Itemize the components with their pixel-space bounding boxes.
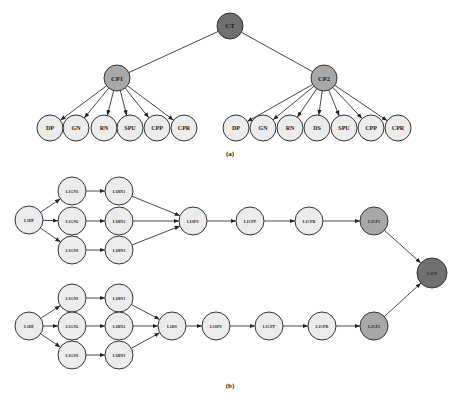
node-cp1: CP1: [104, 65, 130, 91]
edge-arrow: [333, 87, 362, 118]
node-l1rn1: L1RN1: [105, 284, 133, 312]
node-gn: GN: [250, 115, 276, 141]
edge-arrow: [41, 334, 61, 347]
node-l1gn3: L1GN3: [58, 341, 86, 369]
node-label: L2CP2: [368, 324, 380, 329]
node-label: L1GN2: [66, 324, 79, 329]
node-l1cpr: L1CPR: [308, 312, 336, 340]
node-l1spu: L1SPU: [179, 207, 207, 235]
node-l1cp: L1CP: [417, 258, 447, 288]
node-label: L1RN3: [113, 353, 125, 358]
node-label: L1GN2: [66, 219, 79, 224]
node-label: L1RN1: [113, 189, 125, 194]
node-l1cpr: L1CPR: [295, 207, 323, 235]
edge-arrow: [120, 91, 126, 116]
node-label: L1GN1: [66, 189, 79, 194]
node-l1gn2: L1GN2: [58, 207, 86, 235]
node-label: CPR: [178, 125, 191, 131]
node-label: L1CP: [427, 271, 438, 276]
edge-arrow: [297, 89, 316, 117]
node-label: L1DF: [24, 324, 35, 329]
edge-arrow: [329, 90, 339, 116]
node-label: DP: [46, 125, 54, 131]
node-label: L1DS: [167, 324, 178, 329]
node-l1cpp: L1CPP: [236, 207, 264, 235]
node-label: L1CPR: [303, 219, 316, 224]
node-l1rn3: L1RN3: [105, 341, 133, 369]
node-label: SPU: [124, 125, 136, 131]
edge-arrow: [40, 228, 60, 242]
edge-arrow: [107, 91, 113, 116]
edge-arrow: [84, 88, 109, 118]
node-rn: RN: [277, 115, 303, 141]
node-label: CPP: [151, 125, 163, 131]
node-label: CP2: [318, 75, 330, 82]
node-l1rn1: L1RN1: [105, 177, 133, 205]
node-l2cp1: L2CP1: [360, 207, 388, 235]
node-label: L1SPU: [187, 219, 199, 224]
node-l1rn2: L1RN2: [105, 312, 133, 340]
node-l1rn2: L1RN2: [105, 207, 133, 235]
node-label: DP: [232, 125, 240, 131]
node-l1rn3: L1RN3: [105, 236, 133, 264]
node-label: L1CPR: [316, 324, 329, 329]
edge-arrow: [132, 226, 180, 245]
node-label: L1RN1: [113, 296, 125, 301]
node-label: DS: [313, 125, 321, 131]
node-spu: SPU: [331, 115, 357, 141]
node-label: L1GN3: [66, 248, 79, 253]
node-spu: SPU: [117, 115, 143, 141]
node-label: RN: [100, 125, 109, 131]
node-dp: DP: [37, 115, 63, 141]
node-l1df: L1DF: [15, 312, 43, 340]
node-l1gn2: L1GN2: [58, 312, 86, 340]
node-label: CT: [225, 22, 235, 30]
node-rn: RN: [91, 115, 117, 141]
node-label: L1CPP: [244, 219, 257, 224]
edge-arrow: [41, 199, 61, 212]
node-label: GN: [72, 125, 82, 131]
node-l1spu: L1SPU: [202, 312, 230, 340]
edge-arrow: [384, 230, 420, 263]
edge-arrow: [132, 196, 180, 215]
node-l1gn3: L1GN3: [58, 236, 86, 264]
node-label: CPP: [365, 125, 377, 131]
node-label: RN: [286, 125, 295, 131]
node-label: CPR: [392, 125, 405, 131]
node-label: GN: [259, 125, 269, 131]
edge-arrow: [384, 283, 421, 316]
edge-arrow: [60, 86, 106, 120]
node-gn: GN: [63, 115, 89, 141]
node-dp: DP: [223, 115, 249, 141]
node-label: CP1: [111, 75, 123, 82]
edge-arrow: [127, 86, 173, 120]
node-label: L1GN1: [66, 296, 79, 301]
edge-arrow: [129, 31, 218, 72]
node-cpp: CPP: [358, 115, 384, 141]
edge-arrow: [41, 306, 61, 319]
node-label: L1CPP: [263, 324, 276, 329]
node-cpp: CPP: [144, 115, 170, 141]
edge-arrow: [319, 91, 322, 115]
node-cpr: CPR: [171, 115, 197, 141]
edge-arrow: [131, 305, 159, 320]
node-label: L2CP1: [368, 219, 380, 224]
node-l1cpp: L1CPP: [255, 312, 283, 340]
node-l1gn1: L1GN1: [58, 284, 86, 312]
node-cp2: CP2: [311, 65, 337, 91]
node-ds: DS: [304, 115, 330, 141]
node-l2cp2: L2CP2: [360, 312, 388, 340]
flow-diagram-b: L1DPL1GN1L1GN2L1GN3L1RN1L1RN2L1RN3L1SPUL…: [15, 177, 447, 369]
node-label: L1SPU: [210, 324, 222, 329]
node-label: L1RN2: [113, 219, 125, 224]
node-ct: CT: [217, 13, 243, 39]
edge-arrow: [241, 32, 312, 71]
node-l1gn1: L1GN1: [58, 177, 86, 205]
caption-b: (b): [226, 382, 235, 390]
node-l1dp: L1DP: [15, 206, 43, 234]
node-l1ds: L1DS: [158, 312, 186, 340]
caption-a: (a): [226, 150, 235, 158]
node-label: L1GN3: [66, 353, 79, 358]
node-label: L1RN2: [113, 324, 125, 329]
node-label: L1RN3: [113, 248, 125, 253]
